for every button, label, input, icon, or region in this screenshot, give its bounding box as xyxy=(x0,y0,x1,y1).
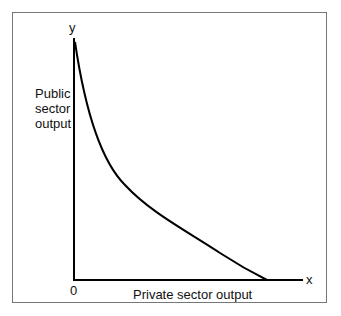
ppf-curve xyxy=(75,42,267,280)
x-axis-label: Private sector output xyxy=(133,287,252,302)
origin-label: 0 xyxy=(70,283,77,298)
y-axis-letter: y xyxy=(69,20,76,35)
diagram-canvas xyxy=(0,0,341,316)
x-axis-letter: x xyxy=(306,272,313,287)
y-axis-label: Public sector output xyxy=(35,86,71,131)
